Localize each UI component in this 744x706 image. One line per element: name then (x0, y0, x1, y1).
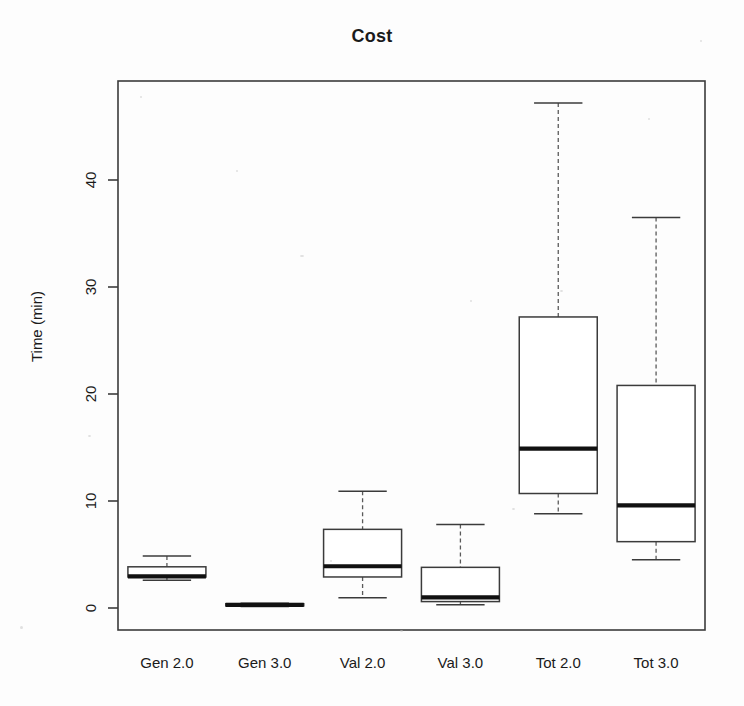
y-tick-label: 0 (82, 604, 99, 612)
scan-artifact (512, 508, 515, 510)
y-tick-label: 40 (82, 172, 99, 189)
scan-artifact (400, 630, 403, 632)
scan-artifact (236, 170, 238, 172)
box-rect (617, 385, 695, 541)
scan-artifact (330, 560, 332, 562)
y-axis-ticks: 010203040 (82, 172, 118, 613)
box-group (128, 556, 206, 580)
box-group (617, 217, 695, 559)
scan-artifact (300, 255, 304, 257)
box-group (324, 491, 402, 597)
x-tick-label: Tot 2.0 (536, 654, 581, 671)
box-group (519, 103, 597, 514)
scan-artifact (88, 435, 91, 437)
scan-artifact (648, 118, 650, 120)
x-axis-ticks: Gen 2.0Gen 3.0Val 2.0Val 3.0Tot 2.0Tot 3… (140, 654, 678, 671)
scan-artifact (560, 290, 563, 292)
scan-artifact (20, 626, 23, 629)
x-tick-label: Gen 2.0 (140, 654, 193, 671)
plot-area: 010203040 Gen 2.0Gen 3.0Val 2.0Val 3.0To… (0, 0, 744, 706)
y-tick-label: 30 (82, 279, 99, 296)
x-tick-label: Val 3.0 (438, 654, 484, 671)
x-tick-label: Tot 3.0 (634, 654, 679, 671)
box-rect (324, 529, 402, 577)
x-tick-label: Val 2.0 (340, 654, 386, 671)
scan-artifact (140, 96, 142, 98)
x-tick-label: Gen 3.0 (238, 654, 291, 671)
box-series (128, 103, 695, 606)
scan-artifact (700, 40, 702, 42)
box-group (226, 603, 304, 606)
scan-artifact (470, 300, 472, 302)
plot-frame (118, 81, 705, 630)
boxplot-figure: Cost Time (min) 010203040 Gen 2.0Gen 3.0… (0, 0, 744, 706)
box-group (421, 525, 499, 605)
y-tick-label: 10 (82, 493, 99, 510)
y-tick-label: 20 (82, 386, 99, 403)
box-rect (519, 317, 597, 494)
